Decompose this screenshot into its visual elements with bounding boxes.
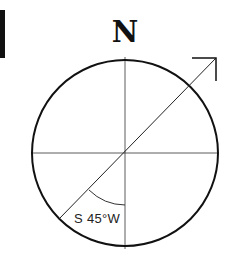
bearing-line xyxy=(59,58,216,219)
compass-diagram: N S 45°W xyxy=(0,0,247,256)
angle-arc xyxy=(89,190,125,205)
north-label: N xyxy=(110,16,140,48)
bearing-label: S 45°W xyxy=(74,211,120,226)
